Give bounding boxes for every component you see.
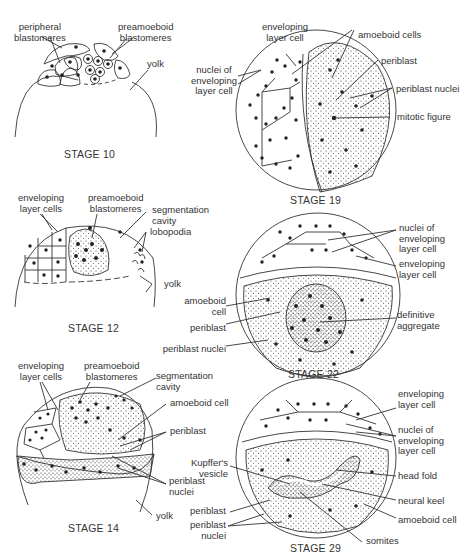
label-peripheral-blastomeres: peripheral blastomeres [14, 22, 66, 43]
label-kupffers-vesicle: Kupffer's vesicle [178, 458, 228, 479]
stage-14-title: STAGE 14 [68, 522, 119, 534]
label-enveloping-layer-cells: enveloping layer cells [18, 361, 64, 382]
stage-10-drawing [15, 37, 157, 137]
label-enveloping-layer-cells: enveloping layer cells [18, 193, 64, 214]
stage-19-title: STAGE 19 [290, 194, 341, 206]
label-periblast: periblast [381, 56, 417, 67]
label-amoeboid-cells: amoeboid cells [358, 30, 421, 41]
label-head-fold: head fold [398, 471, 437, 482]
label-yolk: yolk [156, 511, 173, 522]
label-enveloping-layer-cell: enveloping layer cell [399, 259, 445, 280]
label-yolk: yolk [147, 59, 164, 70]
label-nuclei-of-enveloping-layer-cell: nuclei of enveloping layer cell [399, 223, 445, 255]
label-periblast: periblast [180, 506, 226, 517]
label-segmentation-cavity: segmentation cavity [156, 371, 213, 392]
stage-12-drawing [15, 212, 155, 307]
stage-19-drawing [236, 30, 396, 192]
label-definitive-aggregate: definitive aggregate [397, 310, 440, 331]
stage-14-drawing [16, 378, 166, 515]
label-neural-keel: neural keel [398, 496, 444, 507]
label-preamoeboid-blastomeres: preamoeboid blastomeres [84, 361, 139, 382]
label-amoeboid-cell: amoeboid cell [180, 296, 226, 317]
stage-29-drawing [228, 378, 396, 542]
label-periblast-nuclei: periblast nuclei [150, 344, 226, 355]
label-amoeboid-cell: amoeboid cell [170, 398, 229, 409]
label-preamoeboid-blastomeres: preamoeboid blastomeres [118, 22, 173, 43]
label-preamoeboid-blastomeres: preamoeboid blastomeres [88, 193, 143, 214]
label-periblast: periblast [170, 426, 206, 437]
label-yolk: yolk [164, 279, 181, 290]
label-periblast: periblast [180, 323, 226, 334]
label-nuclei-of-enveloping-layer-cell: nuclei of enveloping layer cell [191, 65, 237, 97]
label-enveloping-layer-cell: enveloping layer cell [262, 22, 308, 43]
label-enveloping-layer-cell: enveloping layer cell [398, 389, 444, 410]
stage-22-title: STAGE 22 [288, 368, 339, 380]
label-mitotic-figure: mitotic figure [397, 112, 451, 123]
label-lobopodia: lobopodia [150, 227, 191, 238]
stage-12-title: STAGE 12 [68, 322, 119, 334]
stage-29-title: STAGE 29 [290, 542, 341, 554]
label-amoeboid-cell: amoeboid cell [398, 515, 457, 526]
label-periblast-nuclei: periblast nuclei [169, 476, 205, 497]
label-segmentation-cavity: segmentation cavity [152, 205, 209, 226]
stage-10-title: STAGE 10 [64, 148, 115, 160]
label-nuclei-of-enveloping-layer-cell: nuclei of enveloping layer cell [398, 425, 444, 457]
label-somites: somites [366, 536, 399, 547]
label-periblast-nuclei: periblast nuclei [180, 520, 226, 541]
label-periblast-nuclei: periblast nuclei [396, 84, 459, 95]
stage-22-drawing [226, 213, 400, 377]
